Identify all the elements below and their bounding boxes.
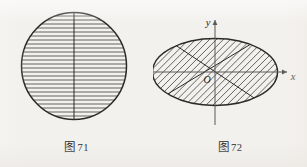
hatched-ellipse-diagram: x y O (153, 0, 307, 135)
x-axis-label: x (290, 71, 296, 82)
figure-71-caption-prefix: 图 (64, 141, 76, 153)
figure-page: 图71 (0, 0, 307, 167)
figure-72-block: x y O 图72 (153, 0, 307, 167)
chord-ascending (153, 32, 271, 104)
figure-71-caption: 图71 (0, 138, 153, 154)
figure-72-caption: 图72 (153, 138, 307, 154)
origin-label: O (203, 74, 210, 85)
figure-71-caption-number: 71 (78, 142, 90, 153)
figure-71-block: 图71 (0, 0, 153, 167)
figure-72-caption-number: 72 (231, 142, 243, 153)
y-axis-label: y (205, 17, 211, 28)
hatched-circle-diagram (0, 0, 153, 135)
figure-72-caption-prefix: 图 (218, 141, 230, 153)
hatch-line (173, 0, 307, 135)
ellipse-diagonal-hatching (153, 0, 307, 135)
hatch-line (153, 0, 307, 135)
